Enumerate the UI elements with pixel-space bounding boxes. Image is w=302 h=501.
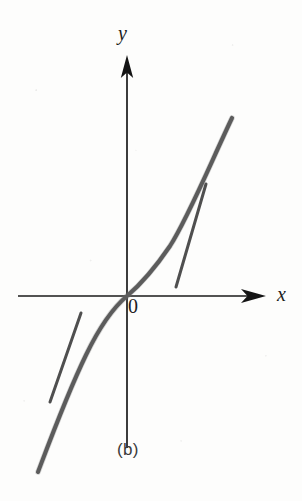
origin-label: 0: [128, 296, 138, 316]
tangent-line-lower-left: [50, 313, 81, 402]
tangent-line-upper-right: [176, 184, 206, 287]
figure-caption: (b): [117, 440, 139, 460]
y-axis-label: y: [118, 23, 127, 43]
figure-canvas: [0, 0, 302, 501]
cubic-curve-figure: y x 0 (b): [0, 0, 302, 501]
x-axis-label: x: [277, 284, 286, 304]
